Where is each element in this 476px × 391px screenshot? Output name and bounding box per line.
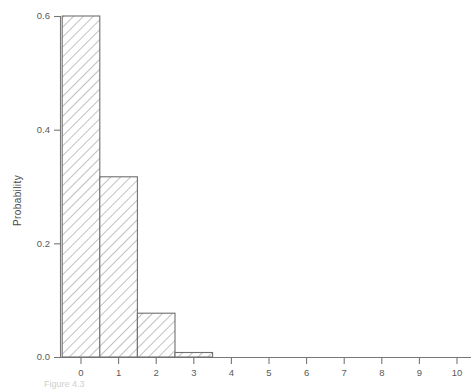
x-tick-label-3: 3 [180, 367, 208, 378]
y-tick-label-3: 0.6 [8, 10, 50, 21]
x-tick-label-5: 5 [255, 367, 283, 378]
x-tick-label-8: 8 [368, 367, 396, 378]
x-tick-label-4: 4 [217, 367, 245, 378]
y-tick-label-0: 0.0 [8, 351, 50, 362]
bar-1 [100, 177, 138, 357]
y-tick-label-1: 0.2 [8, 238, 50, 249]
bar-series [62, 16, 212, 357]
histogram-figure: Probability 0.0 0.2 0.4 0.6 0 1 2 3 4 5 … [0, 0, 476, 391]
bar-0 [62, 16, 100, 357]
chart-canvas [0, 0, 476, 391]
y-ticks [54, 17, 61, 358]
bar-2 [137, 313, 175, 357]
x-tick-label-2: 2 [142, 367, 170, 378]
bar-3 [175, 353, 213, 358]
x-tick-label-0: 0 [67, 367, 95, 378]
y-tick-label-2: 0.4 [8, 124, 50, 135]
y-axis-title: Probability [12, 156, 23, 246]
figure-caption: Figure 4.3 [44, 379, 85, 389]
x-tick-label-10: 10 [443, 367, 471, 378]
x-tick-label-9: 9 [405, 367, 433, 378]
x-tick-label-7: 7 [330, 367, 358, 378]
x-tick-label-1: 1 [105, 367, 133, 378]
x-tick-label-6: 6 [293, 367, 321, 378]
x-ticks [81, 358, 457, 365]
